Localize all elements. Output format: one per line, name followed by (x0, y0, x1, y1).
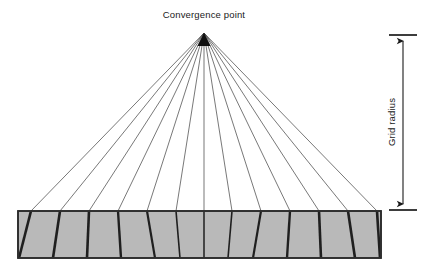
grid-radius-dimension: Grid radius (386, 35, 417, 210)
radiating-line (204, 33, 290, 211)
convergence-point-label: Convergence point (163, 9, 246, 20)
radiating-line (204, 33, 377, 211)
radiating-line (89, 33, 204, 211)
radiating-line (31, 33, 204, 211)
figure-canvas: Convergence point (0, 0, 429, 275)
radiating-line (204, 33, 319, 211)
grid-radius-label: Grid radius (386, 98, 397, 146)
radiating-line (118, 33, 204, 211)
radiating-line (204, 33, 261, 211)
radiating-line (147, 33, 204, 211)
radiating-line (204, 33, 232, 211)
radiating-line (60, 33, 204, 211)
radiating-line (204, 33, 348, 211)
radiating-lines-group (31, 33, 377, 211)
grid-rectangle (18, 211, 381, 258)
radiating-line (176, 33, 204, 211)
convergence-grid-diagram: Convergence point (0, 0, 429, 275)
